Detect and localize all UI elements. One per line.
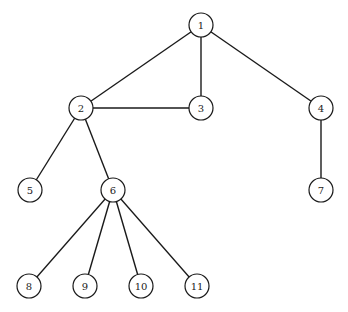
edge-6-11 (113, 190, 197, 286)
nodes-layer: 1234567891011 (17, 13, 333, 298)
node-1: 1 (189, 13, 213, 37)
node-label: 9 (82, 281, 88, 292)
edges-layer (29, 25, 321, 286)
edge-6-10 (113, 190, 141, 286)
node-label: 4 (318, 103, 324, 114)
tree-diagram: 1234567891011 (0, 0, 348, 312)
edge-1-4 (201, 25, 321, 108)
node-label: 8 (26, 281, 32, 292)
node-label: 11 (191, 281, 204, 292)
edge-6-8 (29, 190, 113, 286)
node-label: 3 (198, 103, 204, 114)
node-label: 1 (198, 20, 204, 31)
node-label: 6 (110, 185, 116, 196)
node-label: 7 (318, 185, 324, 196)
node-label: 2 (78, 103, 84, 114)
node-6: 6 (101, 178, 125, 202)
node-2: 2 (69, 96, 93, 120)
graph-canvas: 1234567891011 (0, 0, 348, 312)
node-10: 10 (129, 274, 153, 298)
node-8: 8 (17, 274, 41, 298)
edge-2-6 (81, 108, 113, 190)
node-7: 7 (309, 178, 333, 202)
node-label: 5 (27, 185, 33, 196)
node-5: 5 (18, 178, 42, 202)
node-11: 11 (185, 274, 209, 298)
edge-6-9 (85, 190, 113, 286)
edge-2-5 (30, 108, 81, 190)
node-3: 3 (189, 96, 213, 120)
node-4: 4 (309, 96, 333, 120)
node-label: 10 (135, 281, 148, 292)
node-9: 9 (73, 274, 97, 298)
edge-1-2 (81, 25, 201, 108)
